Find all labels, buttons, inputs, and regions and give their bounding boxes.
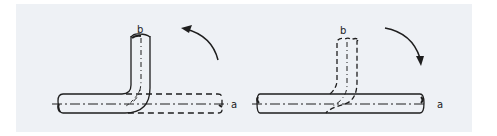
left-bent-pipe [58, 34, 150, 113]
left-rotation-arrow-icon [181, 25, 218, 60]
left-label-a: a [231, 99, 237, 110]
right-bent-dashed-position [326, 38, 359, 113]
left-label-b: b [137, 24, 143, 35]
right-label-b: b [340, 25, 346, 36]
right-label-a: a [437, 99, 443, 110]
pipe-rotation-diagram: b a b a [0, 0, 497, 136]
right-rotation-arrow-icon [385, 28, 424, 66]
